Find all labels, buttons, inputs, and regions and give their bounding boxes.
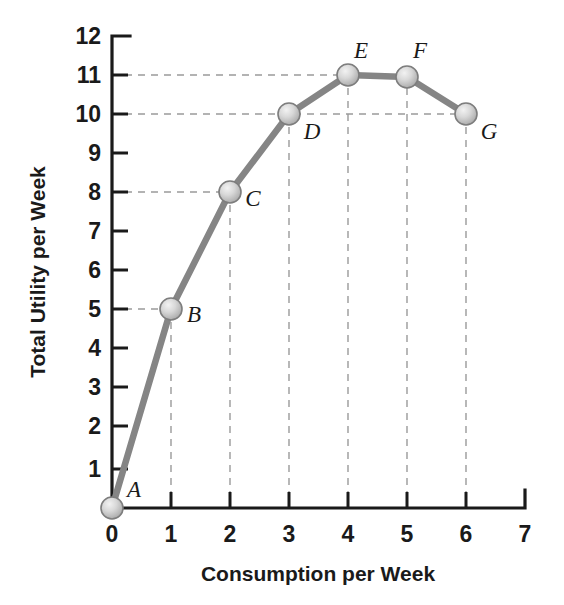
y-tick-label-5: 5 — [88, 296, 101, 322]
x-tick-label-4: 4 — [342, 521, 355, 547]
data-point-label-d: D — [303, 119, 321, 144]
x-tick-label-5: 5 — [401, 521, 414, 547]
data-point-d[interactable] — [278, 103, 300, 125]
y-tick-label-2: 2 — [88, 413, 101, 439]
data-point-c[interactable] — [219, 181, 241, 203]
y-axis — [112, 36, 130, 508]
y-tick-label-3: 3 — [88, 374, 101, 400]
x-tick-label-1: 1 — [165, 521, 178, 547]
x-axis-title: Consumption per Week — [201, 562, 435, 585]
data-point-f[interactable] — [396, 66, 418, 88]
data-point-a[interactable] — [101, 497, 123, 519]
y-tick-label-9: 9 — [88, 140, 101, 166]
y-tick-label-12: 12 — [75, 23, 101, 49]
data-point-label-f: F — [412, 38, 428, 63]
data-point-b[interactable] — [160, 298, 182, 320]
data-point-label-e: E — [353, 38, 368, 63]
y-tick-label-11: 11 — [77, 62, 102, 88]
x-tick-marks — [171, 492, 466, 508]
y-tick-label-1: 1 — [88, 456, 101, 482]
y-tick-label-4: 4 — [88, 335, 101, 361]
y-tick-marks — [112, 75, 128, 469]
x-tick-label-0: 0 — [106, 521, 119, 547]
data-point-g[interactable] — [455, 103, 477, 125]
data-point-label-b: B — [187, 302, 201, 327]
data-point-label-g: G — [481, 119, 498, 144]
x-tick-label-3: 3 — [283, 521, 296, 547]
utility-chart: 12 11 10 9 8 7 6 5 4 3 2 1 0 1 2 3 4 5 6… — [0, 0, 564, 605]
data-point-labels: A B C D E F G — [125, 38, 498, 502]
y-axis-title: Total Utility per Week — [26, 166, 49, 378]
data-point-label-a: A — [125, 477, 142, 502]
y-tick-label-6: 6 — [88, 257, 101, 283]
y-tick-label-7: 7 — [88, 218, 101, 244]
x-tick-labels: 0 1 2 3 4 5 6 7 — [106, 521, 532, 547]
x-tick-label-6: 6 — [460, 521, 473, 547]
y-tick-label-8: 8 — [88, 179, 101, 205]
chart-canvas: 12 11 10 9 8 7 6 5 4 3 2 1 0 1 2 3 4 5 6… — [0, 0, 564, 605]
y-tick-label-10: 10 — [75, 101, 101, 127]
y-tick-labels: 12 11 10 9 8 7 6 5 4 3 2 1 — [75, 23, 101, 482]
x-axis — [112, 490, 525, 508]
x-tick-label-2: 2 — [224, 521, 237, 547]
x-tick-label-7: 7 — [519, 521, 532, 547]
data-point-e[interactable] — [337, 64, 359, 86]
data-point-label-c: C — [245, 186, 261, 211]
